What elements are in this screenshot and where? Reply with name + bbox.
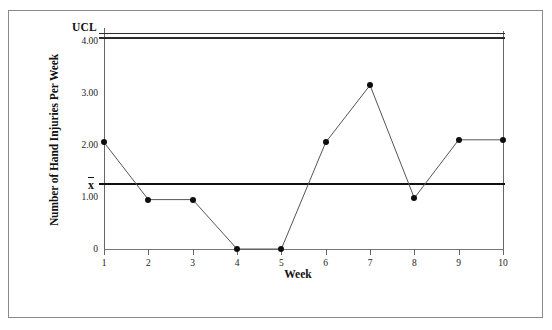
center-line-label: x <box>88 178 94 193</box>
x-tick-label: 7 <box>357 258 383 268</box>
x-tick-mark <box>193 249 194 255</box>
y-tick-label: 0 <box>62 244 98 254</box>
x-tick-mark <box>370 249 371 255</box>
x-tick-mark <box>503 249 504 255</box>
data-point <box>456 137 462 143</box>
y-tick-label: 1.00 <box>62 192 98 202</box>
data-point <box>145 197 151 203</box>
x-axis-title-text: Week <box>284 268 311 280</box>
x-bar-glyph: x <box>88 178 94 193</box>
x-tick-label: 2 <box>135 258 161 268</box>
ucl-label: UCL <box>72 21 97 33</box>
x-tick-mark <box>414 249 415 255</box>
x-tick-label: 10 <box>490 258 516 268</box>
control-chart-figure: Number of Hand Injuries Per Week 4.003.0… <box>0 0 552 330</box>
series-line <box>104 28 504 250</box>
x-tick-label: 9 <box>446 258 472 268</box>
y-tick-label: 3.00 <box>62 88 98 98</box>
x-tick-label: 5 <box>268 258 294 268</box>
x-tick-label: 3 <box>180 258 206 268</box>
x-tick-mark <box>104 249 105 255</box>
x-tick-label: 1 <box>91 258 117 268</box>
x-axis-title: Week <box>0 268 552 280</box>
y-tick-label: 4.00 <box>62 36 98 46</box>
y-axis-tick-labels: 4.003.002.001.000 <box>58 28 98 249</box>
x-tick-label: 4 <box>224 258 250 268</box>
y-tick-label: 2.00 <box>62 140 98 150</box>
plot-area: 12345678910 <box>104 28 504 249</box>
x-tick-label: 6 <box>313 258 339 268</box>
x-tick-label: 8 <box>401 258 427 268</box>
data-point <box>234 246 240 252</box>
x-tick-mark <box>326 249 327 255</box>
data-point <box>190 197 196 203</box>
x-tick-mark <box>459 249 460 255</box>
data-point <box>500 137 506 143</box>
x-tick-mark <box>148 249 149 255</box>
